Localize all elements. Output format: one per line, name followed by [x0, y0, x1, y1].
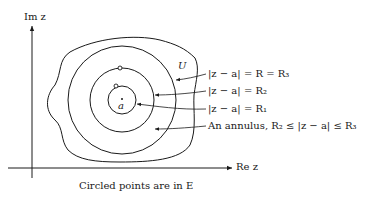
leader-middle-circle: [155, 91, 206, 95]
circled-point-outer: [118, 66, 122, 70]
annotation-outer-circle: |z − a| = R = R₃: [208, 69, 289, 79]
annotation-inner-circle: |z − a| = R₁: [208, 104, 267, 114]
annotation-middle-circle: |z − a| = R₂: [208, 86, 267, 96]
y-axis-label: Im z: [24, 12, 46, 22]
leader-outer-circle: [176, 74, 206, 80]
center-label: a: [118, 101, 124, 111]
leader-annulus: [155, 126, 206, 129]
region-label: U: [178, 61, 186, 71]
figure-caption: Circled points are in E: [79, 180, 193, 191]
x-axis-label: Re z: [236, 162, 258, 172]
annulus-diagram: [0, 0, 367, 202]
annotation-annulus: An annulus, R₂ ≤ |z − a| ≤ R₃: [208, 121, 357, 131]
circled-point-inner: [114, 84, 118, 88]
leader-inner-circle: [137, 104, 206, 109]
